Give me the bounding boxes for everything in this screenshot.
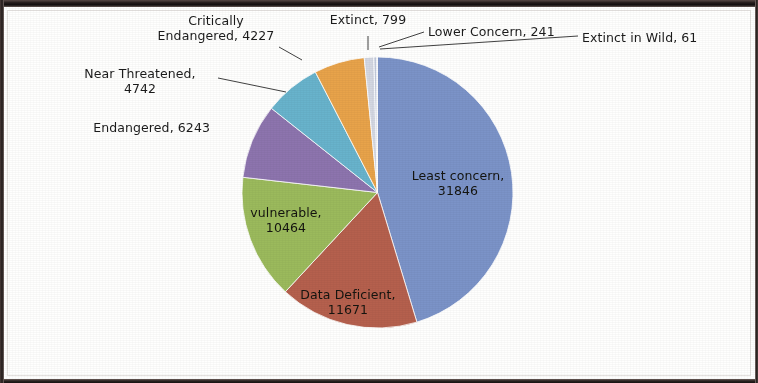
leader-line-lower-concern: [379, 32, 424, 47]
leader-line-near-threatened: [218, 78, 286, 92]
slice-label-extinct: Extinct, 799: [316, 12, 420, 27]
slice-label-vulnerable: vulnerable, 10464: [238, 205, 334, 235]
pie-chart-svg: Least concern, 31846Data Deficient, 1167…: [0, 0, 758, 383]
slice-label-near-threatened: Near Threatened, 4742: [70, 66, 210, 96]
slice-label-data-deficient: Data Deficient, 11671: [288, 287, 408, 317]
slice-label-critically-endangered: Critically Endangered, 4227: [152, 13, 280, 43]
pie-chart-figure: Least concern, 31846Data Deficient, 1167…: [0, 0, 758, 383]
slice-label-endangered: Endangered, 6243: [40, 120, 210, 135]
leader-line-critically-endangered: [279, 47, 302, 60]
slice-label-extinct-in-wild: Extinct in Wild, 61: [582, 30, 722, 45]
slice-label-lower-concern: Lower Concern, 241: [428, 24, 578, 39]
slice-label-least-concern: Least concern, 31846: [398, 168, 518, 198]
